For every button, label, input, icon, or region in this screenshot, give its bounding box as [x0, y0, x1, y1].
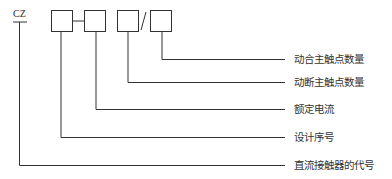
leader-box-1: [61, 32, 285, 138]
leader-box-3: [128, 32, 285, 83]
label-design-number: 设计序号: [294, 130, 334, 144]
slash-separator: [141, 12, 146, 30]
box-4: [151, 11, 172, 32]
box-2: [85, 11, 106, 32]
leader-box-2: [96, 32, 285, 110]
label-make-contacts: 动合主触点数量: [294, 52, 364, 66]
model-code-diagram: CZ 动合主触点数量 动断主触点数量 额定电流 设计序号 直流接触器的代号: [0, 0, 392, 179]
label-dc-contactor-code: 直流接触器的代号: [294, 158, 374, 172]
label-break-contacts: 动断主触点数量: [294, 75, 364, 89]
prefix-code: CZ: [13, 8, 26, 20]
leader-prefix: [20, 22, 286, 166]
box-1: [52, 11, 73, 32]
leader-box-4: [162, 32, 285, 60]
box-3: [118, 11, 139, 32]
label-rated-current: 额定电流: [294, 102, 334, 116]
diagram-lines: [0, 0, 392, 179]
